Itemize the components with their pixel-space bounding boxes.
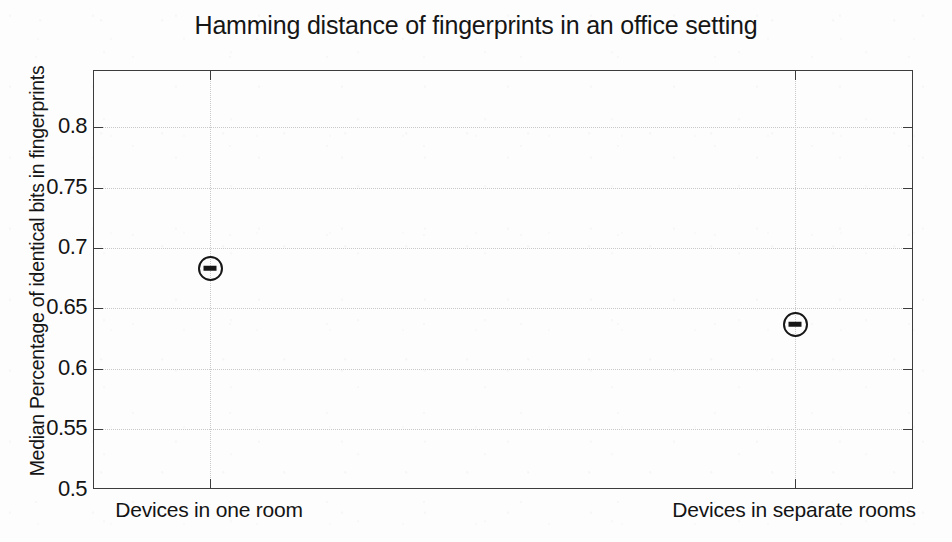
x-tick-mark-top-separate-rooms	[795, 71, 796, 80]
y-axis-tick-labels: 0.8 0.75 0.7 0.65 0.6 0.55 0.5	[0, 70, 87, 489]
x-tick-mark-bottom-one-room	[210, 479, 211, 488]
gridline-horizontal-0.75	[94, 188, 912, 189]
y-tick-label-0.8: 0.8	[58, 115, 87, 137]
x-axis-tick-labels: Devices in one room Devices in separate …	[0, 497, 952, 537]
y-tick-mark-right-0.75	[903, 188, 912, 189]
gridline-vertical-separate-rooms	[795, 71, 796, 488]
y-tick-mark-left-0.65	[94, 308, 103, 309]
data-point-devices-in-one-room[interactable]	[198, 256, 223, 281]
chart-page: Hamming distance of fingerprints in an o…	[0, 0, 952, 542]
plot-area	[93, 70, 913, 489]
gridline-horizontal-0.65	[94, 308, 912, 309]
y-tick-mark-left-0.7	[94, 248, 103, 249]
x-tick-label-devices-in-separate-rooms: Devices in separate rooms	[672, 497, 916, 523]
y-tick-mark-right-0.65	[903, 308, 912, 309]
y-tick-label-0.6: 0.6	[58, 357, 87, 379]
chart-title: Hamming distance of fingerprints in an o…	[0, 8, 952, 42]
y-tick-mark-right-0.7	[903, 248, 912, 249]
y-tick-label-0.65: 0.65	[46, 296, 87, 318]
x-tick-label-devices-in-one-room: Devices in one room	[115, 497, 303, 523]
x-tick-mark-bottom-separate-rooms	[795, 479, 796, 488]
gridline-horizontal-0.55	[94, 429, 912, 430]
y-tick-label-0.55: 0.55	[46, 417, 87, 439]
gridline-horizontal-0.6	[94, 369, 912, 370]
data-point-devices-in-separate-rooms[interactable]	[783, 312, 808, 337]
y-tick-mark-left-0.8	[94, 127, 103, 128]
y-tick-mark-left-0.55	[94, 429, 103, 430]
y-tick-mark-right-0.55	[903, 429, 912, 430]
y-tick-mark-left-0.6	[94, 369, 103, 370]
x-tick-mark-top-one-room	[210, 71, 211, 80]
y-tick-label-0.75: 0.75	[46, 176, 87, 198]
gridline-horizontal-0.8	[94, 127, 912, 128]
y-tick-label-0.7: 0.7	[58, 236, 87, 258]
y-tick-mark-right-0.8	[903, 127, 912, 128]
y-tick-mark-right-0.6	[903, 369, 912, 370]
gridline-horizontal-0.7	[94, 248, 912, 249]
y-tick-mark-left-0.75	[94, 188, 103, 189]
